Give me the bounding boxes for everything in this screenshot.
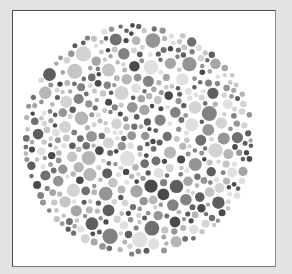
plate-dot: [180, 225, 186, 231]
plate-dot: [140, 45, 145, 50]
plate-dot: [54, 146, 58, 150]
plate-dot: [33, 181, 41, 189]
plate-dot: [240, 101, 246, 107]
plate-dot: [105, 99, 112, 106]
plate-dot: [205, 79, 212, 86]
plate-dot: [48, 162, 53, 167]
plate-dot: [85, 100, 92, 107]
plate-dot: [104, 127, 111, 134]
plate-dot: [230, 73, 235, 78]
plate-dot: [158, 189, 170, 201]
plate-dot: [201, 177, 208, 184]
plate-dot: [192, 76, 197, 81]
plate-dot: [231, 88, 236, 93]
plate-dot: [141, 28, 146, 33]
plate-dot: [122, 239, 127, 244]
plate-dot: [227, 168, 237, 178]
plate-dot: [159, 27, 165, 33]
plate-dot: [95, 80, 102, 87]
plate-dot: [203, 146, 207, 150]
plate-dot: [35, 157, 40, 162]
plate-dot: [122, 74, 132, 84]
plate-dot: [164, 85, 169, 90]
plate-dot: [223, 73, 227, 77]
plate-dot: [212, 197, 224, 209]
plate-dot: [54, 216, 60, 222]
plate-dot: [199, 95, 205, 101]
plate-dot: [99, 243, 106, 250]
plate-dot: [57, 81, 62, 86]
plate-dot: [77, 83, 85, 91]
plate-dot: [232, 132, 243, 143]
plate-dot: [155, 115, 166, 126]
plate-dot: [239, 108, 246, 115]
plate-dot: [187, 144, 192, 149]
plate-dot: [135, 248, 141, 254]
plate-dot: [62, 214, 66, 218]
plate-dot: [103, 219, 108, 224]
plate-dot: [151, 146, 157, 152]
plate-dot: [232, 107, 237, 112]
plate-dot: [108, 54, 112, 58]
plate-dot: [160, 179, 167, 186]
plate-dot: [177, 155, 185, 163]
plate-dot: [132, 164, 139, 171]
plate-dot: [99, 187, 113, 201]
plate-dot: [129, 174, 134, 179]
plate-dot: [47, 208, 52, 213]
plate-dot: [88, 74, 96, 82]
plate-dot: [194, 174, 200, 180]
plate-dot: [125, 231, 132, 238]
plate-dot: [113, 130, 118, 135]
plate-dot: [128, 217, 133, 222]
plate-dot: [31, 117, 39, 125]
plate-dot: [53, 113, 58, 118]
plate-dot: [72, 199, 77, 204]
plate-dot: [43, 68, 56, 81]
plate-dot: [137, 207, 142, 212]
plate-dot: [95, 208, 100, 213]
plate-dot: [228, 80, 233, 85]
plate-dot: [134, 114, 140, 120]
plate-dot: [91, 36, 97, 42]
plate-dot: [164, 91, 173, 100]
plate-dot: [181, 45, 187, 51]
plate-dot: [184, 131, 189, 136]
plate-dot: [67, 152, 77, 162]
plate-dot: [137, 51, 143, 57]
plate-dot: [199, 151, 204, 156]
plate-dot: [209, 215, 215, 221]
plate-dot: [98, 177, 103, 182]
plate-dot: [202, 157, 206, 161]
plate-dot: [152, 26, 157, 31]
plate-dot: [101, 158, 106, 163]
plate-dot: [154, 96, 162, 104]
plate-dot: [25, 127, 30, 132]
plate-dot: [176, 73, 188, 85]
plate-dot: [116, 172, 121, 177]
plate-dot: [127, 131, 136, 140]
plate-dot: [114, 75, 120, 81]
plate-dot: [131, 95, 136, 100]
plate-dot: [232, 182, 237, 187]
plate-dot: [56, 158, 62, 164]
plate-dot: [33, 129, 44, 140]
plate-dot: [91, 189, 97, 195]
plate-dot: [213, 102, 218, 107]
plate-dot: [77, 225, 84, 232]
plate-dot: [164, 214, 169, 219]
plate-dot: [112, 104, 118, 110]
plate-dot: [137, 145, 143, 151]
plate-dot: [232, 144, 238, 150]
plate-dot: [37, 147, 45, 155]
plate-dot: [66, 218, 73, 225]
plate-dot: [226, 206, 231, 211]
plate-dot: [134, 74, 142, 82]
plate-dot: [114, 86, 128, 100]
plate-dot: [219, 209, 226, 216]
plate-dot: [76, 146, 82, 152]
plate-dot: [146, 33, 161, 48]
plate-dot: [145, 221, 160, 236]
plate-dot: [86, 207, 93, 214]
plate-dot: [165, 105, 170, 110]
